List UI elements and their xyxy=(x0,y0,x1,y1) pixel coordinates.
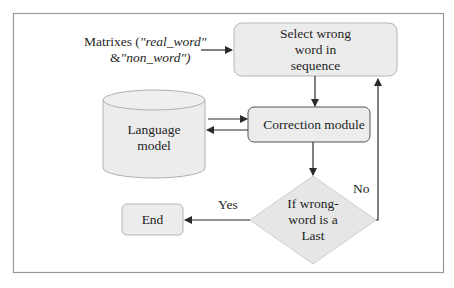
end-label: End xyxy=(122,212,183,228)
language-model-label: Language model xyxy=(103,122,205,154)
decision-label: If wrong- word is a Last xyxy=(263,196,363,244)
input-line-2: &"non_word") xyxy=(84,50,224,66)
input-line-1: Matrixes ("real_word" xyxy=(84,34,224,50)
input-matrixes-label: Matrixes ("real_word" &"non_word") xyxy=(84,34,224,66)
select-wrong-word-label: Select wrong word in sequence xyxy=(234,26,397,74)
decision-line-1: If wrong- xyxy=(263,196,363,212)
select-line-2: word in xyxy=(234,42,397,58)
language-model-line-1: Language xyxy=(103,122,205,138)
input-line-1-prefix: Matrixes ( xyxy=(84,34,140,49)
decision-line-3: Last xyxy=(263,228,363,244)
yes-edge-label: Yes xyxy=(218,197,238,213)
decision-line-2: word is a xyxy=(263,212,363,228)
language-model-line-2: model xyxy=(103,138,205,154)
input-line-2-italic: "non_word") xyxy=(121,50,191,65)
flowchart: Matrixes ("real_word" &"non_word") Selec… xyxy=(0,0,454,288)
correction-module-label: Correction module xyxy=(250,117,374,133)
input-line-2-prefix: & xyxy=(110,50,121,65)
select-line-1: Select wrong xyxy=(234,26,397,42)
input-line-1-italic: "real_word" xyxy=(140,34,207,49)
select-line-3: sequence xyxy=(234,58,397,74)
no-edge-label: No xyxy=(353,181,370,197)
